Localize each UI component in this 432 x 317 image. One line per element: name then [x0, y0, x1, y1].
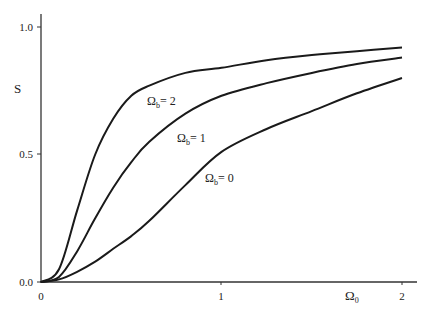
y-tick-label: 0.0	[19, 276, 33, 288]
x-axis: 0 1 2 Ω0	[38, 282, 417, 305]
curves	[41, 47, 402, 282]
y-tick-label: 1.0	[19, 21, 33, 33]
curve-label-omega-b-0: Ωb= 0	[205, 171, 234, 187]
x-tick-label: 2	[399, 290, 405, 302]
y-tick-label: 0.5	[19, 148, 33, 160]
x-tick-label: 0	[38, 290, 44, 302]
curve-label-omega-b-1: Ωb= 1	[177, 131, 206, 147]
y-axis: 1.0 0.5 0.0 S	[14, 14, 41, 288]
chart: 1.0 0.5 0.0 S 0 1 2 Ω0 Ωb= 2 Ωb= 1 Ωb= 0	[0, 0, 432, 317]
curve-series-0	[41, 47, 402, 282]
curve-label-omega-b-2: Ωb= 2	[147, 94, 176, 110]
curve-series-1	[41, 58, 402, 282]
y-axis-label: S	[14, 81, 21, 96]
x-tick-label: 1	[218, 290, 224, 302]
x-axis-label: Ω0	[345, 288, 359, 305]
curve-labels: Ωb= 2 Ωb= 1 Ωb= 0	[147, 94, 234, 187]
